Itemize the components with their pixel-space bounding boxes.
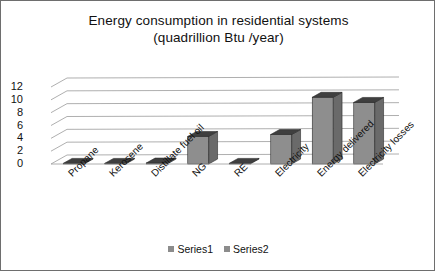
gridline-depth-segment [51,129,67,138]
gridline [67,128,399,129]
y-axis-tick-label: 4 [1,132,23,143]
gridline-depth-segment [51,78,67,87]
y-axis-tick-label: 0 [1,158,23,169]
chart-title-line1: Energy consumption in residential system… [89,13,349,28]
y-axis-tick-label: 2 [1,145,23,156]
chart-legend: Series1Series2 [1,243,435,255]
legend-label: Series1 [177,243,213,255]
gridline-depth-segment [51,91,67,100]
bar-side-face [209,131,218,164]
legend-swatch-icon [224,246,230,252]
legend-item[interactable]: Series1 [168,243,213,255]
gridline-depth-segment [51,142,67,151]
chart-subtitle: (quadrillion Btu /year) [1,30,435,47]
gridline [67,103,399,104]
gridline [67,154,399,155]
gridline-depth-segment [51,104,67,113]
gridline [67,116,399,117]
y-axis-tick-label: 6 [1,120,23,131]
gridline-depth-segment [51,117,67,126]
gridline [67,90,399,91]
y-axis-tick-label: 10 [1,94,23,105]
y-axis-tick-label: 12 [1,81,23,92]
legend-item[interactable]: Series2 [224,243,269,255]
legend-label: Series2 [233,243,269,255]
legend-swatch-icon [168,246,174,252]
chart-image-frame: Energy consumption in residential system… [0,0,435,271]
y-axis-tick-label: 8 [1,107,23,118]
chart-title: Energy consumption in residential system… [1,13,435,46]
gridline [67,77,399,78]
